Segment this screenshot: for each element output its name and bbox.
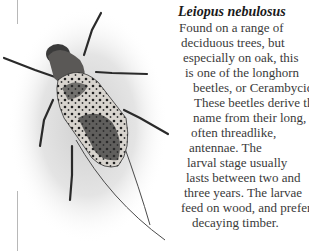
caption-line: antennae. The: [189, 140, 262, 155]
species-name: Leiopus nebulosus: [178, 4, 286, 20]
beetle-photo: [0, 0, 175, 251]
caption-line: larval stage usually: [187, 155, 287, 170]
caption-line: often threadlike,: [191, 125, 276, 140]
caption-line: Found on a range of: [179, 20, 284, 35]
caption-line: deciduous trees, but: [181, 35, 285, 50]
caption-line: decaying timber.: [192, 215, 279, 230]
caption-line: beetles, or Cerambycida: [193, 80, 309, 95]
caption-line: is one of the longhorn: [185, 65, 299, 80]
species-caption: Leiopus nebulosus Found on a range of de…: [160, 0, 309, 251]
caption-line: three years. The larvae: [184, 185, 302, 200]
caption-line: These beetles derive th: [194, 95, 309, 110]
caption-line: especially on oak, this: [183, 50, 299, 65]
caption-line: lasts between two and: [186, 170, 300, 185]
caption-line: name from their long,: [193, 110, 306, 125]
caption-line: feed on wood, and prefer: [181, 200, 309, 215]
